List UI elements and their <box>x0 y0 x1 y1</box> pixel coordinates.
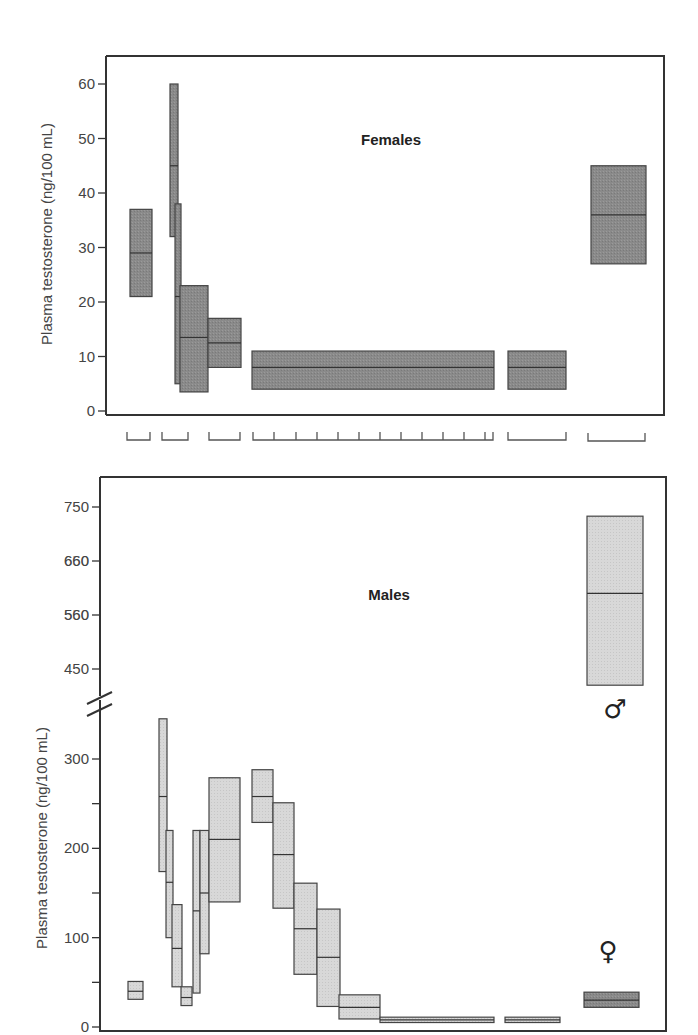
y-tick-label-overprint: 550 <box>64 606 89 623</box>
y-tick-label: 450 <box>64 660 89 677</box>
range-box <box>317 909 340 1006</box>
range-box <box>508 351 566 389</box>
y-tick-label: 40 <box>78 184 95 201</box>
y-tick-label: 30 <box>78 239 95 256</box>
adult-male-box <box>587 516 643 685</box>
y-tick-label: 60 <box>78 75 95 92</box>
male-symbol-icon: ♂ <box>603 694 626 724</box>
range-box <box>180 286 208 392</box>
y-tick-label: 0 <box>81 1018 89 1035</box>
range-box <box>200 830 209 953</box>
y-tick-label: 750 <box>64 498 89 515</box>
female-symbol-icon: ♀ <box>598 936 617 966</box>
y-tick-label-overprint: 650 <box>64 552 89 569</box>
range-box <box>294 883 317 974</box>
y-tick-label: 50 <box>78 130 95 147</box>
chart-canvas: 0102030405060 Plasma testosterone (ng/10… <box>0 0 698 1035</box>
range-box <box>591 166 646 264</box>
range-box <box>505 1017 560 1022</box>
y-tick-label: 100 <box>64 929 89 946</box>
y-tick-label: 20 <box>78 293 95 310</box>
y-tick-label: 10 <box>78 348 95 365</box>
range-box <box>193 830 200 993</box>
range-box <box>172 905 182 987</box>
female-chart: 0102030405060 Plasma testosterone (ng/10… <box>38 56 664 419</box>
age-group-brackets <box>127 432 645 441</box>
male-y-axis: 0100200300450560550660650750 <box>64 498 100 1035</box>
female-reference-box <box>584 992 639 1007</box>
range-box <box>209 778 240 902</box>
range-box <box>208 318 241 367</box>
range-box <box>181 987 192 1006</box>
range-box <box>252 351 494 389</box>
female-chart-title: Females <box>361 131 421 148</box>
range-box <box>130 209 152 296</box>
male-y-axis-label: Plasma testosterone (ng/100 mL) <box>33 727 50 949</box>
range-box <box>380 1017 494 1022</box>
y-tick-label: 0 <box>87 402 95 419</box>
y-tick-label: 300 <box>64 750 89 767</box>
male-frame <box>100 477 666 1031</box>
female-y-axis: 0102030405060 <box>78 75 106 419</box>
male-chart-title: Males <box>368 586 410 603</box>
male-chart: 0100200300450560550660650750 Plasma test… <box>33 477 666 1035</box>
y-tick-label: 200 <box>64 839 89 856</box>
range-box <box>252 770 273 823</box>
range-box <box>128 981 143 999</box>
female-y-axis-label: Plasma testosterone (ng/100 mL) <box>38 123 55 345</box>
range-box <box>273 803 294 908</box>
range-box <box>339 995 380 1019</box>
